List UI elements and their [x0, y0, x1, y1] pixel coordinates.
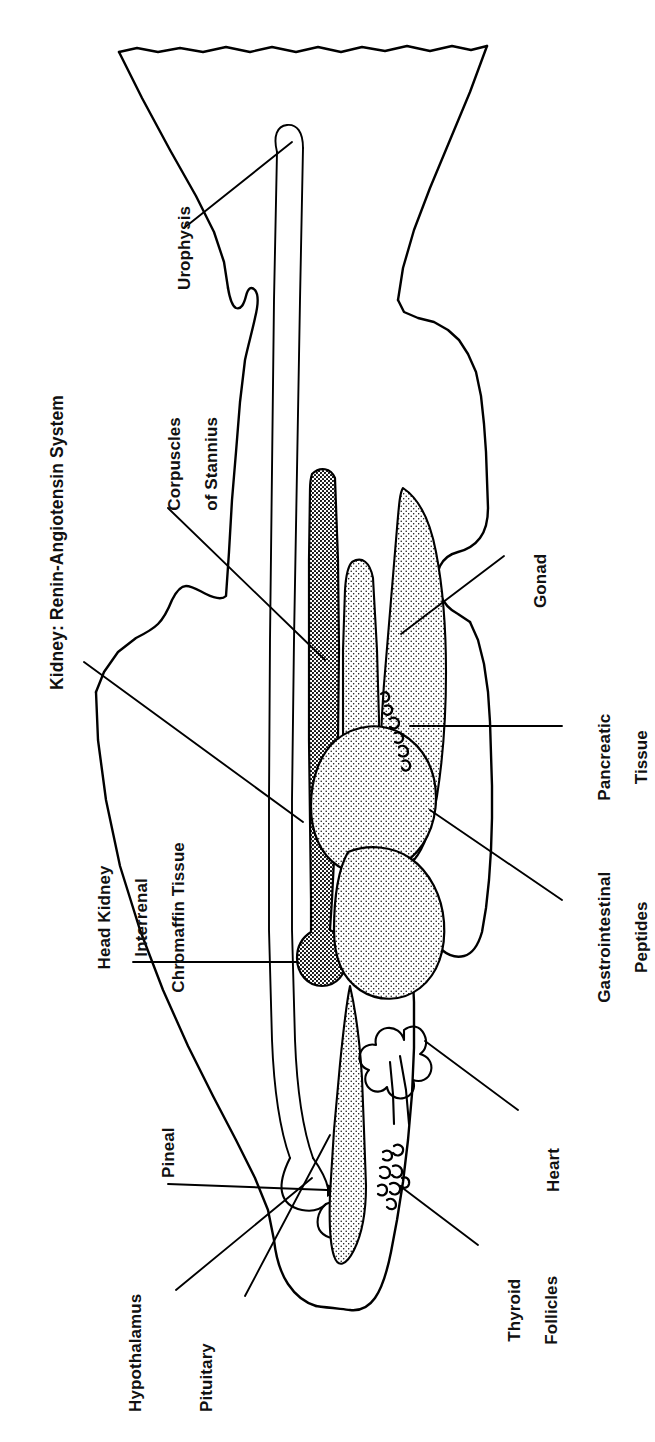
label-heart: Heart — [545, 1148, 563, 1192]
label-corpuscles-line1: Corpuscles — [165, 417, 184, 511]
label-gonad: Gonad — [532, 554, 550, 608]
heart-organ — [359, 1027, 431, 1124]
thyroid-follicles-marks — [378, 1145, 409, 1209]
label-urophysis: Urophysis — [176, 206, 194, 290]
label-gastrointestinal-peptides: Gastrointestinal Peptides — [578, 872, 655, 1022]
leader-thyroid-follicles — [400, 1186, 478, 1245]
label-head-kidney-line3: Chromaffin Tissue — [169, 842, 188, 993]
leader-hypothalamus — [176, 1178, 312, 1290]
label-pineal: Pineal — [160, 1127, 178, 1178]
label-head-kidney-line1: Head Kidney — [95, 865, 114, 969]
label-head-kidney-line2: Interrenal — [132, 878, 151, 956]
label-head-kidney: Head Kidney Interrenal Chromaffin Tissue — [78, 842, 207, 1012]
leader-gastrointestinal-peptides — [430, 810, 562, 900]
label-corpuscles-of-stannius: Corpuscles of Stannius — [148, 417, 240, 530]
leader-heart — [425, 1041, 518, 1110]
label-gastrointestinal-line1: Gastrointestinal — [595, 872, 614, 1003]
label-pancreatic-tissue: Pancreatic Tissue — [578, 714, 655, 820]
label-pancreatic-line2: Tissue — [632, 730, 651, 784]
leader-pituitary — [245, 1135, 330, 1296]
label-gastrointestinal-line2: Peptides — [632, 901, 651, 973]
figure-title: Kidney: Renin-Angiotensin System — [48, 395, 67, 690]
leader-corpuscles-of-stannius — [168, 508, 325, 660]
label-thyroid-line1: Thyroid — [505, 1279, 524, 1342]
label-pituitary: Pituitary — [198, 1343, 216, 1412]
label-thyroid-line2: Follicles — [542, 1276, 561, 1345]
label-thyroid-follicles: Thyroid Follicles — [488, 1276, 580, 1364]
label-hypothalamus: Hypothalamus — [127, 1294, 145, 1412]
label-pancreatic-line1: Pancreatic — [595, 714, 614, 801]
label-corpuscles-line2: of Stannius — [202, 417, 221, 511]
